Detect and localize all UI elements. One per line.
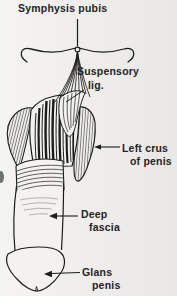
- right-crus-wing: [7, 108, 33, 167]
- label-glans: Glans: [82, 267, 112, 278]
- label-symphysis-pubis: Symphysis pubis: [18, 3, 107, 14]
- glans: [7, 247, 65, 291]
- label-deep-fascia: fascia: [89, 222, 120, 233]
- anatomical-diagram-penis-suspensory-ligament: Symphysis pubis Suspensory lig. Left cru…: [0, 0, 177, 296]
- label-suspensory-lig: lig.: [88, 80, 104, 91]
- scan-smudge: [0, 171, 4, 183]
- label-glans-penis: penis: [92, 280, 120, 291]
- label-left-crus: Left crus: [122, 143, 168, 154]
- left-crus-pointer: [94, 144, 120, 149]
- label-deep: Deep: [81, 209, 107, 220]
- label-left-crus-of-penis: of penis: [130, 156, 172, 167]
- attachment-ring: [75, 47, 80, 52]
- label-suspensory: Suspensory: [77, 66, 139, 77]
